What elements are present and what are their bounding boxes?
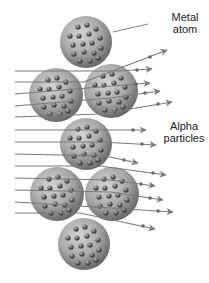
metal-atom-bottom <box>58 218 110 270</box>
metal-atom-label: Metal atom <box>163 11 207 35</box>
metal-atom-row4-right <box>85 167 139 221</box>
metal-atom-leader-line <box>113 24 148 32</box>
alpha-particles-label: Alpha particles <box>159 120 209 144</box>
metal-atom-row2-left <box>29 68 83 122</box>
alpha-particles-label-line1: Alpha <box>159 120 209 132</box>
metal-atom-label-line2: atom <box>163 23 207 35</box>
metal-atom-middle <box>60 118 112 170</box>
alpha-path <box>15 69 152 71</box>
alpha-particles-label-line2: particles <box>159 132 209 144</box>
metal-atom-label-line1: Metal <box>163 11 207 23</box>
metal-atom-top <box>60 16 112 68</box>
